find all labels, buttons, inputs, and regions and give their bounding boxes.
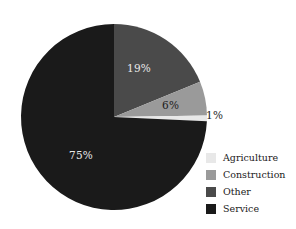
legend-item-construction[interactable]: Construction [206, 166, 296, 183]
legend-label-construction: Construction [223, 169, 285, 180]
legend-swatch-other [206, 187, 216, 197]
legend-label-other: Other [223, 186, 251, 197]
chart-page: 19% 6% 1% 75% Agriculture Construction O… [0, 0, 296, 229]
legend-swatch-construction [206, 170, 216, 180]
legend-item-agriculture[interactable]: Agriculture [206, 149, 296, 166]
pie-slices [21, 24, 207, 210]
legend-item-service[interactable]: Service [206, 200, 296, 217]
legend-swatch-service [206, 204, 216, 214]
chart-legend: Agriculture Construction Other Service [206, 149, 296, 217]
legend-label-agriculture: Agriculture [223, 152, 278, 163]
legend-swatch-agriculture [206, 153, 216, 163]
legend-item-other[interactable]: Other [206, 183, 296, 200]
legend-label-service: Service [223, 203, 259, 214]
